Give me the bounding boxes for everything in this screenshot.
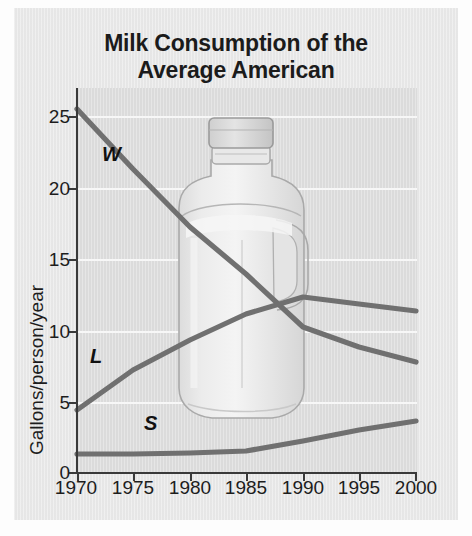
y-axis-label-10: 10 <box>49 322 70 341</box>
x-axis-label-1985: 1985 <box>215 478 277 497</box>
y-tick-10 <box>69 331 77 333</box>
y-axis-label-20: 20 <box>49 179 70 198</box>
y-tick-20 <box>69 188 77 190</box>
series-label-w: W <box>102 144 121 164</box>
x-axis-label-1995: 1995 <box>328 478 390 497</box>
y-tick-0 <box>69 472 77 474</box>
x-axis-label-1990: 1990 <box>272 478 334 497</box>
series-line-s <box>77 421 416 454</box>
x-axis-label-1970: 1970 <box>45 478 107 497</box>
chart-page: Milk Consumption of the Average American… <box>0 0 472 536</box>
y-tick-5 <box>69 402 77 404</box>
series-line-w <box>77 109 416 362</box>
series-line-l <box>77 297 416 410</box>
y-tick-15 <box>69 259 77 261</box>
x-axis-label-2000: 2000 <box>385 478 447 497</box>
plot-area: W L S <box>76 88 417 474</box>
data-series-layer <box>76 88 417 474</box>
y-axis-labels: 25 20 15 10 5 0 <box>30 88 70 474</box>
y-axis-line <box>76 88 78 474</box>
y-axis-label-25: 25 <box>49 107 70 126</box>
y-axis-label-5: 5 <box>59 393 70 412</box>
y-axis-label-15: 15 <box>49 250 70 269</box>
x-axis-label-1980: 1980 <box>159 478 221 497</box>
series-label-l: L <box>90 346 102 366</box>
y-tick-25 <box>69 116 77 118</box>
series-label-s: S <box>144 413 157 433</box>
x-axis-labels: 1970 1975 1980 1985 1990 1995 2000 <box>0 478 472 506</box>
x-axis-label-1975: 1975 <box>102 478 164 497</box>
